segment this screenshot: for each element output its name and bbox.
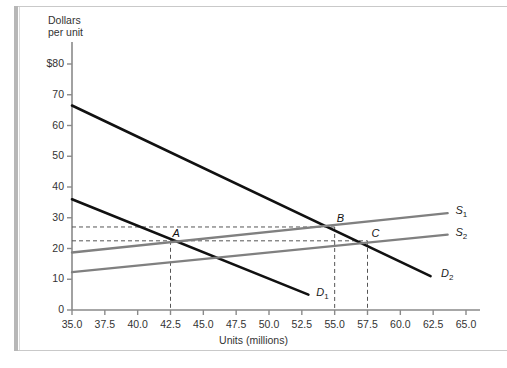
x-axis-title: Units (millions) xyxy=(0,334,507,346)
equilibrium-point-label-C: C xyxy=(372,227,380,239)
curve-D1 xyxy=(72,199,308,294)
chart-plot-area xyxy=(0,0,507,368)
curve-label-text: S xyxy=(455,204,462,216)
curve-label-text: S xyxy=(455,226,462,238)
y-tick-label: 60 xyxy=(30,119,64,131)
curve-label-subscript: 2 xyxy=(463,232,467,241)
curve-label-S1: S1 xyxy=(455,204,467,219)
equilibrium-point-label-B: B xyxy=(337,212,344,224)
y-tick-label: 0 xyxy=(30,303,64,315)
y-tick-label: 10 xyxy=(30,272,64,284)
curve-label-D2: D2 xyxy=(441,267,453,282)
y-tick-label: $80 xyxy=(30,57,64,69)
curve-S1 xyxy=(72,213,448,252)
curve-S2 xyxy=(72,235,448,273)
curve-label-text: D xyxy=(441,267,449,279)
y-axis-title: Dollars per unit xyxy=(48,14,83,38)
chart-svg xyxy=(0,0,507,368)
y-tick-label: 70 xyxy=(30,88,64,100)
curve-D2 xyxy=(72,106,431,277)
y-tick-label: 50 xyxy=(30,149,64,161)
curve-label-D1: D1 xyxy=(316,286,328,301)
y-tick-label: 30 xyxy=(30,211,64,223)
curve-label-subscript: 1 xyxy=(463,210,467,219)
figure-container: Dollars per unit Units (millions) 010203… xyxy=(0,0,507,368)
x-tick-label: 65.0 xyxy=(446,318,486,330)
curve-label-S2: S2 xyxy=(455,226,467,241)
y-tick-label: 40 xyxy=(30,180,64,192)
curve-label-subscript: 1 xyxy=(324,292,328,301)
curve-label-subscript: 2 xyxy=(449,273,453,282)
y-tick-label: 20 xyxy=(30,242,64,254)
equilibrium-point-label-A: A xyxy=(173,227,180,239)
